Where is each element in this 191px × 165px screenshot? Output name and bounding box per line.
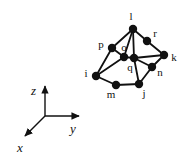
graph-node-label-q: q (127, 61, 133, 73)
graph-node-label-n: n (157, 66, 163, 78)
graph-node-label-p: p (98, 38, 104, 50)
graph-node-label-j: j (141, 87, 145, 99)
graph-figure: lrpoqknimj zyx (0, 0, 191, 165)
axis-label-x: x (16, 140, 23, 155)
graph-node-label-r: r (153, 27, 157, 39)
graph-node-label-l: l (129, 10, 132, 22)
graph-node-p (108, 44, 116, 52)
graph-node-label-k: k (171, 51, 177, 63)
figure-canvas: lrpoqknimj zyx (0, 0, 191, 165)
graph-node-label-o: o (121, 41, 127, 53)
graph-node-n (148, 63, 156, 71)
graph-node-l (129, 25, 137, 33)
graph-edge-l-q (133, 29, 134, 58)
axis-label-layer: zyx (16, 83, 76, 155)
graph-node-label-m: m (107, 88, 116, 100)
axis-label-z: z (30, 83, 36, 98)
graph-node-o (120, 53, 128, 61)
graph-node-r (143, 37, 151, 45)
graph-node-label-i: i (84, 67, 87, 79)
graph-node-i (92, 72, 100, 80)
x-axis (25, 116, 45, 136)
graph-edge-q-k (134, 55, 164, 58)
graph-edge-p-i (96, 48, 112, 76)
graph-edge-o-i (96, 57, 124, 76)
axis-label-y: y (68, 121, 76, 136)
graph-node-k (160, 51, 168, 59)
